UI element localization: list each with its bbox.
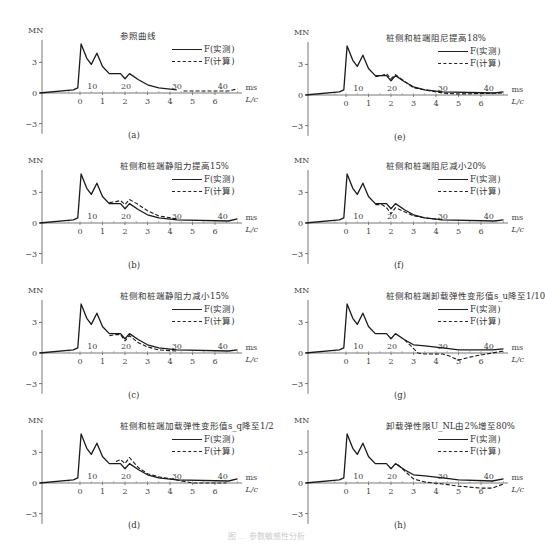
x-tick-label-ms: 20 xyxy=(121,82,131,91)
x-tick-label-lc: 2 xyxy=(388,99,393,108)
y-tick-label: 0 xyxy=(32,219,37,228)
x-tick-label-lc: 4 xyxy=(167,227,172,236)
x-unit-ms: ms xyxy=(245,343,257,352)
y-tick-label: −3 xyxy=(291,380,303,389)
y-unit-label: MN xyxy=(294,286,309,295)
chart-panel-c: 30−3MN012345610203040msL/c桩侧和桩端静阻力减小15%F… xyxy=(0,260,266,388)
x-tick-label-lc: 0 xyxy=(77,357,82,366)
x-tick-label-lc: 2 xyxy=(122,227,127,236)
x-unit-ms: ms xyxy=(245,473,257,482)
dashed-line-swatch xyxy=(172,191,202,192)
x-tick-label-ms: 10 xyxy=(353,342,363,351)
y-tick-label: 0 xyxy=(298,479,303,488)
x-tick-label-lc: 1 xyxy=(366,357,371,366)
x-tick-label-lc: 6 xyxy=(212,227,217,236)
panel-title: 卸载弹性限U_NL由2%增至80% xyxy=(386,419,515,431)
legend: F(实测)F(计算) xyxy=(438,303,501,327)
panel-title: 桩侧和桩端静阻力减小15% xyxy=(120,289,229,301)
x-tick-label-lc: 1 xyxy=(100,487,105,496)
x-tick-label-lc: 3 xyxy=(411,357,416,366)
x-tick-label-ms: 10 xyxy=(87,472,97,481)
y-tick-label: −3 xyxy=(291,250,303,259)
legend-label: F(计算) xyxy=(470,57,501,69)
x-tick-label-ms: 40 xyxy=(484,84,494,93)
legend-item-measured: F(实测) xyxy=(172,43,235,55)
x-tick-label-ms: 10 xyxy=(353,472,363,481)
x-tick-label-lc: 1 xyxy=(100,227,105,236)
series-computed-line xyxy=(109,200,177,219)
legend-label: F(实测) xyxy=(204,433,235,445)
x-tick-label-lc: 6 xyxy=(478,227,483,236)
x-tick-label-ms: 20 xyxy=(387,84,397,93)
y-tick-label: −3 xyxy=(25,250,37,259)
x-tick-label-lc: 0 xyxy=(77,97,82,106)
solid-line-swatch xyxy=(438,309,468,310)
solid-line-swatch xyxy=(172,179,202,180)
x-tick-label-lc: 2 xyxy=(388,357,393,366)
x-tick-label-lc: 4 xyxy=(433,227,438,236)
legend-item-computed: F(计算) xyxy=(438,185,501,197)
x-unit-lc: L/c xyxy=(244,95,258,104)
y-tick-label: 3 xyxy=(298,318,303,327)
y-unit-label: MN xyxy=(294,416,309,425)
legend-item-computed: F(计算) xyxy=(438,445,501,457)
x-tick-label-ms: 20 xyxy=(387,342,397,351)
x-tick-label-lc: 3 xyxy=(145,357,150,366)
x-tick-label-lc: 0 xyxy=(343,357,348,366)
legend-label: F(计算) xyxy=(204,315,235,327)
solid-line-swatch xyxy=(438,51,468,52)
x-tick-label-lc: 6 xyxy=(212,357,217,366)
legend-label: F(实测) xyxy=(470,303,501,315)
y-unit-label: MN xyxy=(28,156,43,165)
dashed-line-swatch xyxy=(172,61,202,62)
y-tick-label: −3 xyxy=(25,380,37,389)
chart-panel-g: 30−3MN012345610203040msL/c桩侧和桩端卸载弹性变形值s_… xyxy=(266,260,532,388)
x-tick-label-lc: 1 xyxy=(366,99,371,108)
panel-title: 桩侧和桩端卸载弹性变形值s_u降至1/10 xyxy=(386,289,545,301)
x-tick-label-lc: 3 xyxy=(411,99,416,108)
legend-item-computed: F(计算) xyxy=(172,315,235,327)
legend-label: F(实测) xyxy=(470,173,501,185)
x-unit-lc: L/c xyxy=(510,355,524,364)
x-tick-label-lc: 1 xyxy=(100,357,105,366)
panel-label: (h) xyxy=(394,520,406,530)
x-tick-label-lc: 1 xyxy=(366,227,371,236)
x-tick-label-ms: 10 xyxy=(87,82,97,91)
series-measured-line xyxy=(40,44,177,93)
y-unit-label: MN xyxy=(28,416,43,425)
panel-label: (d) xyxy=(128,520,140,530)
legend-item-measured: F(实测) xyxy=(172,303,235,315)
x-tick-label-lc: 5 xyxy=(190,357,195,366)
x-tick-label-ms: 40 xyxy=(484,472,494,481)
chart-panel-e: 30−3MN012345610203040msL/c桩侧和桩端阻尼提高18%F(… xyxy=(266,0,532,128)
x-tick-label-lc: 6 xyxy=(212,97,217,106)
x-unit-ms: ms xyxy=(511,213,523,222)
chart-panel-h: 30−3MN012345610203040msL/c卸载弹性限U_NL由2%增至… xyxy=(266,390,532,518)
x-tick-label-lc: 0 xyxy=(77,227,82,236)
dashed-line-swatch xyxy=(172,451,202,452)
x-tick-label-ms: 20 xyxy=(387,212,397,221)
x-tick-label-lc: 2 xyxy=(122,357,127,366)
x-tick-label-lc: 6 xyxy=(212,487,217,496)
dashed-line-swatch xyxy=(438,321,468,322)
legend-label: F(实测) xyxy=(470,433,501,445)
panel-title: 参照曲线 xyxy=(120,29,156,41)
x-unit-lc: L/c xyxy=(510,97,524,106)
x-unit-ms: ms xyxy=(511,85,523,94)
x-unit-ms: ms xyxy=(511,473,523,482)
x-tick-label-lc: 5 xyxy=(190,97,195,106)
x-tick-label-ms: 20 xyxy=(387,472,397,481)
dashed-line-swatch xyxy=(172,321,202,322)
x-tick-label-ms: 10 xyxy=(353,212,363,221)
x-tick-label-ms: 20 xyxy=(121,212,131,221)
x-tick-label-lc: 2 xyxy=(388,487,393,496)
x-tick-label-lc: 3 xyxy=(145,97,150,106)
legend-label: F(计算) xyxy=(204,55,235,67)
dashed-line-swatch xyxy=(438,63,468,64)
x-tick-label-lc: 5 xyxy=(456,99,461,108)
legend-label: F(计算) xyxy=(470,185,501,197)
solid-line-swatch xyxy=(172,49,202,50)
y-tick-label: 0 xyxy=(298,349,303,358)
panel-title: 桩侧和桩端阻尼减小20% xyxy=(386,159,486,171)
x-tick-label-ms: 10 xyxy=(353,84,363,93)
